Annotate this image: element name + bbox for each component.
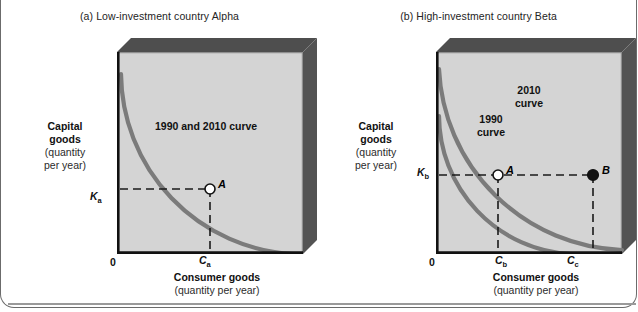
panel-low-investment-alpha: (a) Low-investment country Alpha Capital… (0, 0, 319, 300)
panel-b-y-axis-label: Capital goods (quantity per year) (337, 120, 415, 172)
panel-b-plot-svg (436, 38, 636, 254)
panel-a-x-tick-symbol: C (199, 254, 207, 266)
panel-a-title: (a) Low-investment country Alpha (0, 10, 319, 22)
panel-b-point-A-label: A (506, 164, 514, 176)
panel-b-origin-label: 0 (429, 256, 435, 268)
panel-b-x-tick1-subscript: b (503, 260, 508, 269)
panel-b-caption-2010-line2: curve (503, 97, 555, 110)
panel-a-x-tick-ca: Ca (199, 254, 211, 266)
panel-a-plot-box (117, 38, 317, 254)
panel-a-x-axis-label: Consumer goods (quantity per year) (117, 271, 317, 297)
panel-b-point-A-marker (493, 170, 503, 180)
panel-b-caption-1990-line2: curve (465, 126, 517, 139)
panel-b-caption-1990-line1: 1990 (465, 113, 517, 126)
panel-b-y-label-line1: Capital (337, 120, 415, 133)
panel-b-x-label-line2: (quantity per year) (436, 284, 636, 297)
box-right-face (303, 38, 317, 254)
panel-a-plot-svg (117, 38, 317, 254)
panel-b-x-tick-cc: Cc (567, 254, 579, 266)
panel-b-y-tick-symbol: K (417, 166, 425, 178)
panel-b-x-tick1-symbol: C (495, 254, 503, 266)
panel-a-y-label-line2: goods (26, 133, 104, 146)
panel-a-point-A-label: A (218, 178, 226, 190)
panel-b-x-tick2-symbol: C (567, 254, 575, 266)
panel-b-y-label-line4: per year) (337, 159, 415, 172)
panel-b-y-label-line2: goods (337, 133, 415, 146)
panel-b-point-B-marker (588, 170, 599, 181)
panel-b-x-tick-cb: Cb (495, 254, 507, 266)
panel-a-origin-label: 0 (110, 256, 116, 268)
panel-b-y-label-line3: (quantity (337, 146, 415, 159)
panel-a-y-label-line1: Capital (26, 120, 104, 133)
panel-a-curve-caption: 1990 and 2010 curve (155, 120, 295, 133)
panel-b-caption-2010: 2010 curve (503, 84, 555, 109)
panel-b-point-B-label: B (602, 164, 610, 176)
panel-a-x-label-line2: (quantity per year) (117, 284, 317, 297)
panel-a-y-axis-label: Capital goods (quantity per year) (26, 120, 104, 172)
panel-a-x-tick-subscript: a (207, 260, 211, 269)
panel-a-y-label-line4: per year) (26, 159, 104, 172)
panel-b-caption-2010-line1: 2010 (503, 84, 555, 97)
panel-a-caption-line1: 1990 and 2010 curve (155, 120, 295, 133)
panel-b-x-label-line1: Consumer goods (436, 271, 636, 284)
panel-b-y-tick-subscript: b (425, 172, 430, 181)
panel-high-investment-beta: (b) High-investment country Beta Capital… (319, 0, 638, 300)
panel-b-x-axis-label: Consumer goods (quantity per year) (436, 271, 636, 297)
panel-b-plot-box (436, 38, 636, 254)
panel-a-y-label-line3: (quantity (26, 146, 104, 159)
plot-face (117, 52, 303, 254)
panel-b-y-tick-kb: Kb (417, 166, 429, 178)
box-right-face (622, 38, 636, 254)
panel-b-x-tick2-subscript: c (575, 260, 579, 269)
panel-a-point-A-marker (205, 184, 215, 194)
figure-frame-shadow (8, 303, 636, 305)
panel-b-title: (b) High-investment country Beta (319, 10, 638, 22)
panel-a-y-tick-subscript: a (98, 196, 102, 205)
panel-a-x-label-line1: Consumer goods (117, 271, 317, 284)
panel-a-y-tick-ka: Ka (90, 190, 102, 202)
box-top-face (117, 38, 317, 52)
box-top-face (436, 38, 636, 52)
panel-a-y-tick-symbol: K (90, 190, 98, 202)
panel-b-caption-1990: 1990 curve (465, 113, 517, 138)
